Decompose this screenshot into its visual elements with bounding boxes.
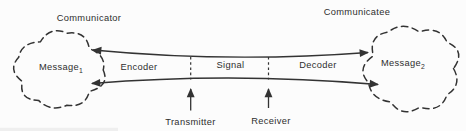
communicator-label: Communicator xyxy=(57,13,122,23)
right-message-cloud xyxy=(363,26,459,111)
message1-subscript: 1 xyxy=(79,67,83,74)
communication-model-diagram: Communicator Communicatee Message1 Messa… xyxy=(0,0,466,131)
decoder-label: Decoder xyxy=(299,60,337,70)
channel-bottom-line xyxy=(92,78,378,85)
signal-label: Signal xyxy=(217,60,245,70)
message1-label: Message1 xyxy=(39,62,83,74)
communication-model-figure: Communicator Communicatee Message1 Messa… xyxy=(0,0,466,131)
scan-artifact xyxy=(0,128,118,131)
receiver-label: Receiver xyxy=(251,116,290,126)
communicatee-label: Communicatee xyxy=(324,7,391,17)
message2-subscript: 2 xyxy=(421,63,425,70)
message2-label: Message2 xyxy=(381,58,425,70)
channel-top-line xyxy=(93,50,368,57)
message1-base-text: Message xyxy=(39,62,79,72)
message2-base-text: Message xyxy=(381,58,421,68)
transmitter-label: Transmitter xyxy=(165,117,216,127)
encoder-label: Encoder xyxy=(120,62,157,72)
